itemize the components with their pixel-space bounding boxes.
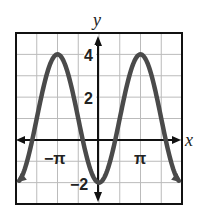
y-tick-neg2: −2 — [70, 176, 88, 193]
x-axis-label: x — [184, 130, 193, 150]
x-axis-left-arrow-icon — [16, 136, 25, 144]
y-axis-down-arrow-icon — [94, 192, 102, 202]
curve-left-arrow-icon — [16, 173, 27, 183]
y-tick-4: 4 — [84, 47, 93, 64]
curve-right-arrow-icon — [171, 173, 182, 183]
y-axis-up-arrow-icon — [94, 36, 102, 46]
y-tick-2: 2 — [84, 90, 93, 107]
x-axis-right-arrow-icon — [172, 136, 181, 144]
x-tick-pi: π — [134, 150, 146, 167]
y-axis-label: y — [91, 10, 101, 30]
chart: y x 4 2 −2 −π π — [0, 0, 198, 221]
x-tick-neg-pi: −π — [44, 150, 66, 167]
